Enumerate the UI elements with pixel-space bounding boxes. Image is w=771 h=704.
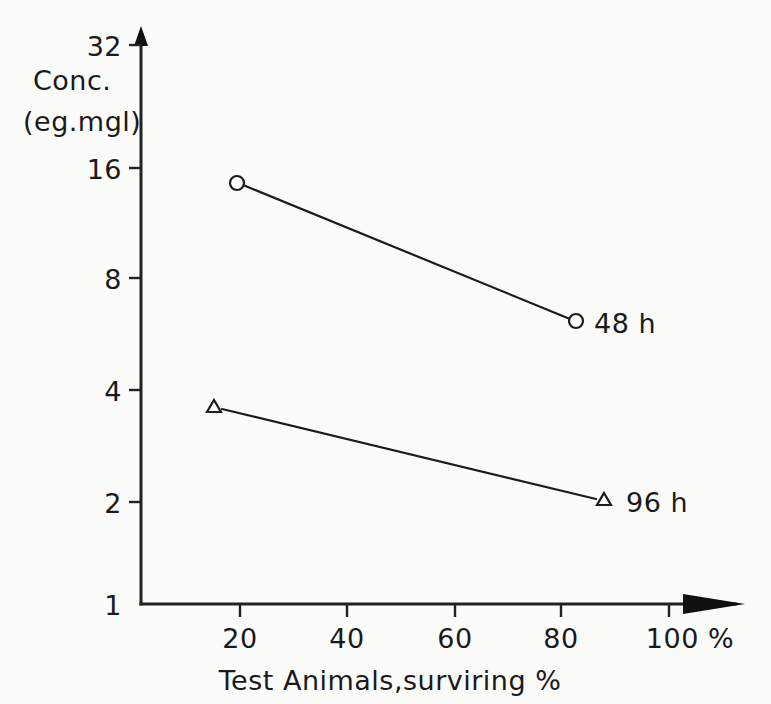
chart-canvas: 32 16 8 4 2 1 Conc. (eg.mgl) 20 40 60 80… (0, 0, 771, 704)
chart-figure: 32 16 8 4 2 1 Conc. (eg.mgl) 20 40 60 80… (0, 0, 771, 704)
x-tick-label-20: 20 (222, 623, 257, 654)
x-axis-ticks (240, 604, 669, 617)
series-48h (230, 176, 583, 328)
x-tick-label-100: 100 % (646, 623, 734, 654)
y-tick-label-4: 4 (104, 376, 122, 407)
series-96h-point-2 (597, 493, 611, 505)
series-96h-line (222, 409, 596, 499)
y-tick-label-16: 16 (87, 154, 122, 185)
y-axis-arrow-icon (134, 26, 148, 46)
series-96h-point-1 (207, 400, 221, 412)
x-axis-arrow-icon (683, 594, 745, 614)
series-48h-label: 48 h (594, 308, 656, 339)
y-tick-label-32: 32 (87, 31, 122, 62)
y-tick-label-1: 1 (104, 590, 122, 621)
y-axis-title-line1: Conc. (33, 65, 111, 96)
x-tick-label-80: 80 (543, 623, 578, 654)
x-axis-title: Test Animals,surviring % (218, 665, 562, 696)
series-48h-point-2 (569, 314, 583, 328)
y-axis-title-line2: (eg.mgl) (23, 106, 141, 137)
series-96h-label: 96 h (626, 487, 688, 518)
series-48h-point-1 (230, 176, 244, 190)
x-tick-label-40: 40 (329, 623, 364, 654)
y-tick-label-2: 2 (104, 488, 122, 519)
series-48h-line (243, 185, 570, 319)
x-tick-label-60: 60 (437, 623, 472, 654)
y-tick-label-8: 8 (104, 264, 122, 295)
series-96h (207, 400, 611, 505)
